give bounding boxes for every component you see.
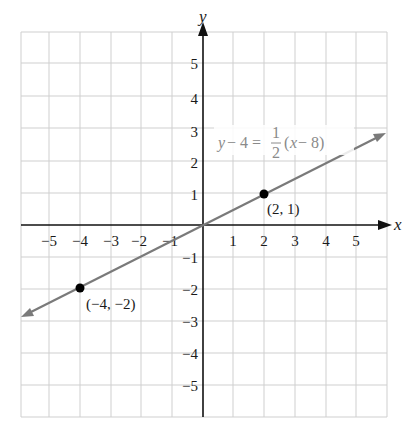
y-axis (198, 22, 208, 417)
svg-text:(: ( (284, 134, 289, 152)
svg-text:4: 4 (322, 233, 330, 249)
svg-text:−2: −2 (182, 282, 198, 298)
svg-text:−2: −2 (131, 233, 147, 249)
svg-text:−5: −5 (182, 378, 198, 394)
svg-text:5: 5 (352, 233, 360, 249)
coordinate-plane: x y −5 −4 −3 −2 −1 1 2 3 4 5 5 4 3 2 1 −… (0, 0, 412, 438)
svg-text:1: 1 (229, 233, 237, 249)
y-axis-label: y (197, 7, 207, 26)
svg-text:− 4 =: − 4 = (227, 134, 261, 151)
point-2-1 (260, 190, 269, 199)
svg-text:− 8): − 8) (298, 134, 324, 152)
svg-text:1: 1 (272, 124, 280, 141)
point-label-2-1: (2, 1) (267, 201, 300, 218)
svg-text:−3: −3 (103, 233, 119, 249)
svg-text:4: 4 (191, 91, 199, 107)
svg-text:−4: −4 (182, 346, 198, 362)
svg-text:2: 2 (191, 155, 199, 171)
line-arrow-right-icon (373, 133, 386, 142)
point-neg4-neg2 (76, 284, 85, 293)
x-axis-label: x (393, 215, 402, 234)
x-axis-arrow-icon (378, 220, 392, 230)
point-label-neg4-neg2: (−4, −2) (86, 296, 135, 313)
svg-text:2: 2 (272, 144, 280, 161)
svg-text:x: x (289, 134, 297, 151)
x-tick-labels: −5 −4 −3 −2 −1 1 2 3 4 5 (41, 233, 360, 249)
svg-text:2: 2 (260, 233, 268, 249)
svg-text:3: 3 (291, 233, 299, 249)
svg-text:−3: −3 (182, 314, 198, 330)
x-axis (21, 220, 392, 230)
svg-text:5: 5 (191, 56, 199, 72)
svg-text:1: 1 (191, 187, 199, 203)
line-arrow-left-icon (21, 308, 34, 317)
svg-text:3: 3 (191, 124, 199, 140)
svg-text:−4: −4 (72, 233, 88, 249)
equation-label: y − 4 = 1 2 ( x − 8) (214, 124, 354, 161)
svg-text:y: y (216, 134, 226, 152)
svg-text:−5: −5 (41, 233, 57, 249)
svg-text:−1: −1 (182, 250, 198, 266)
